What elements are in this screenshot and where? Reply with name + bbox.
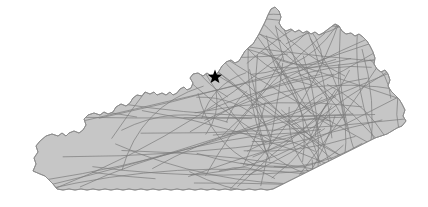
- kentucky-map-svg: [0, 0, 428, 207]
- map-figure: [0, 0, 428, 207]
